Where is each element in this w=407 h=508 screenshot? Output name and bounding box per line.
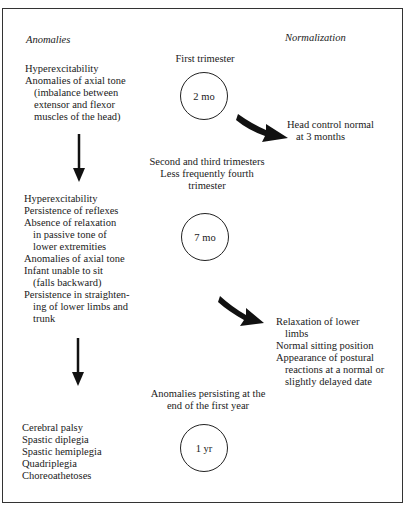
- stage2-period: Second and third trimesters Less frequen…: [148, 156, 266, 192]
- curved-arrow-icon: [236, 110, 294, 146]
- stage3-age: 1 yr: [196, 443, 213, 454]
- stage2-normalization: Relaxation of lower limbs Normal sitting…: [276, 316, 384, 388]
- down-arrow-icon: [71, 338, 85, 388]
- stage2-age-circle: 7 mo: [181, 213, 229, 261]
- stage3-age-circle: 1 yr: [180, 424, 228, 472]
- stage2-anomalies: Hyperexcitability Persistence of reflexe…: [24, 193, 130, 325]
- stage1-normalization: Head control normal at 3 months: [287, 119, 374, 143]
- stage3-period: Anomalies persisting at the end of the f…: [143, 388, 273, 412]
- stage2-age: 7 mo: [194, 232, 215, 243]
- down-arrow-icon: [72, 134, 86, 184]
- stage3-anomalies: Cerebral palsy Spastic diplegia Spastic …: [22, 422, 102, 482]
- stage1-anomalies: Hyperexcitability Anomalies of axial ton…: [25, 63, 126, 123]
- header-normalization: Normalization: [285, 32, 346, 44]
- stage1-period: First trimester: [165, 53, 245, 65]
- stage1-age: 2 mo: [193, 91, 214, 102]
- stage1-age-circle: 2 mo: [180, 72, 228, 120]
- curved-arrow-icon: [218, 293, 270, 333]
- header-anomalies: Anomalies: [26, 34, 70, 46]
